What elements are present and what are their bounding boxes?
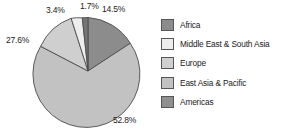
slice-label-africa: 14.5% (102, 5, 125, 14)
legend-label-europe: Europe (180, 59, 206, 67)
slice-label-east-asia-pacific: 52.8% (113, 116, 136, 125)
pie-plot-area: 14.5% 52.8% 27.6% 3.4% 1.7% (0, 0, 160, 129)
pie-svg (0, 0, 160, 129)
legend-label-africa: Africa (180, 21, 200, 29)
pie-chart-figure: 14.5% 52.8% 27.6% 3.4% 1.7% Africa Middl… (0, 0, 281, 129)
legend-swatch-africa (161, 19, 174, 31)
legend-swatch-east-asia-pacific (161, 77, 174, 89)
legend-item-americas: Americas (161, 93, 281, 112)
slice-label-middle-east-south-asia: 3.4% (46, 6, 65, 15)
legend-label-americas: Americas (180, 98, 213, 106)
legend-swatch-middle-east-south-asia (161, 38, 174, 50)
legend-label-east-asia-pacific: East Asia & Pacific (180, 79, 246, 87)
slice-label-europe: 27.6% (6, 36, 29, 45)
chart-legend: Africa Middle East & South Asia Europe E… (161, 15, 281, 125)
slice-label-americas: 1.7% (80, 2, 99, 11)
legend-item-east-asia-pacific: East Asia & Pacific (161, 73, 281, 92)
legend-item-europe: Europe (161, 54, 281, 73)
legend-label-middle-east-south-asia: Middle East & South Asia (180, 40, 270, 48)
legend-swatch-europe (161, 57, 174, 69)
legend-item-middle-east-south-asia: Middle East & South Asia (161, 34, 281, 53)
legend-item-africa: Africa (161, 15, 281, 34)
legend-swatch-americas (161, 96, 174, 108)
